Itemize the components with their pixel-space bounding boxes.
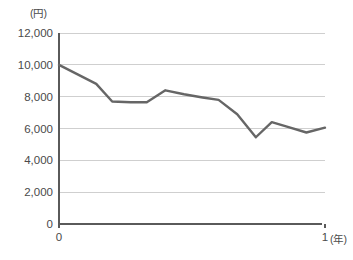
y-axis-tick-label: 0 (47, 218, 53, 230)
x-axis-tick-label: 1 (322, 231, 328, 243)
y-axis-tick-label: 4,000 (24, 154, 53, 166)
gridline-group (59, 33, 325, 192)
x-axis-tick-label-group: 01 (56, 231, 328, 243)
data-series-line (59, 65, 325, 137)
y-axis-tick-label: 12,000 (18, 27, 53, 39)
y-axis-tick-label: 6,000 (24, 123, 53, 135)
line-chart-figure: 02,0004,0006,0008,00010,00012,000 01 (円)… (0, 0, 353, 260)
y-axis-unit-label: (円) (30, 7, 47, 19)
y-axis-tick-label: 2,000 (24, 186, 53, 198)
y-axis-tick-label-group: 02,0004,0006,0008,00010,00012,000 (18, 27, 53, 230)
x-axis-tick-mark-group (59, 224, 325, 228)
chart-canvas: 02,0004,0006,0008,00010,00012,000 01 (円)… (0, 0, 353, 260)
x-axis-tick-label: 0 (56, 231, 62, 243)
y-axis-tick-label: 10,000 (18, 59, 53, 71)
x-axis-unit-label: (年) (330, 233, 347, 245)
y-axis-tick-label: 8,000 (24, 91, 53, 103)
